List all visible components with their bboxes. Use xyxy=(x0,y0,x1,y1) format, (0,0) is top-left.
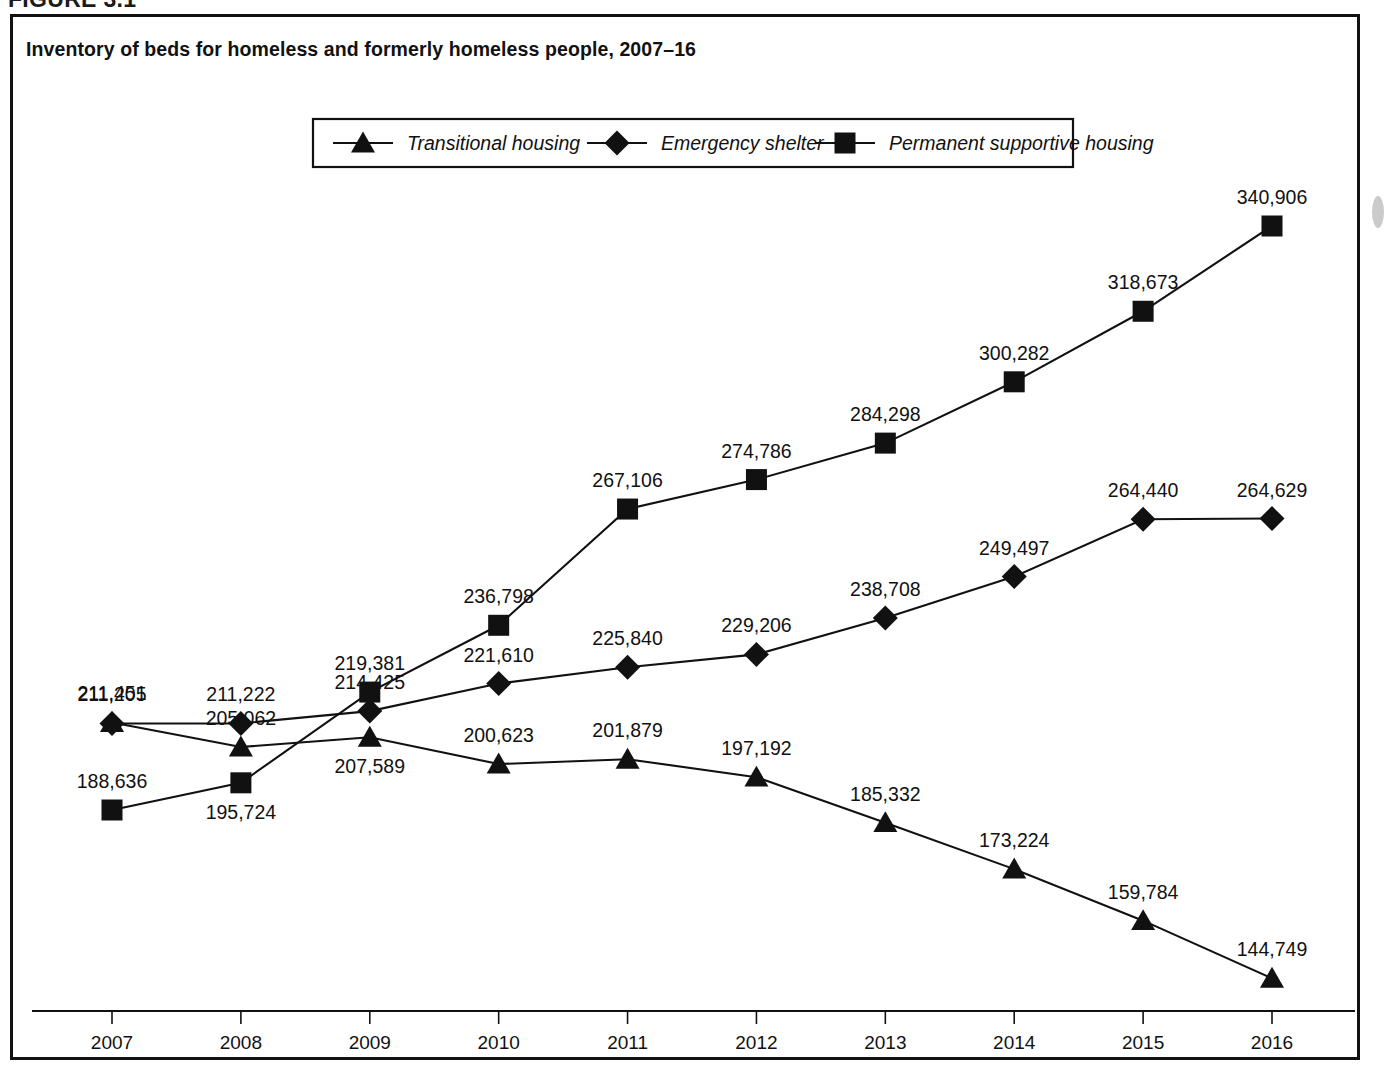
data-label: 211,222 xyxy=(206,683,275,705)
diamond-marker xyxy=(873,605,898,630)
series-permanent-supportive-housing xyxy=(102,216,1283,821)
chart-legend: Transitional housingEmergency shelterPer… xyxy=(313,119,1154,167)
diamond-marker xyxy=(100,711,125,736)
diamond-marker xyxy=(744,642,769,667)
data-label: 264,440 xyxy=(1108,479,1179,501)
data-label: 205,062 xyxy=(206,707,277,729)
square-marker xyxy=(1133,301,1154,322)
data-label: 211,205 xyxy=(77,683,146,705)
square-marker xyxy=(1262,216,1283,237)
triangle-marker xyxy=(358,726,382,747)
data-label: 284,298 xyxy=(850,403,921,425)
diamond-marker xyxy=(486,671,511,696)
series-emergency-shelter xyxy=(100,506,1285,736)
data-label: 207,589 xyxy=(335,755,406,777)
data-label: 185,332 xyxy=(850,783,921,805)
data-label: 318,673 xyxy=(1108,271,1179,293)
triangle-marker xyxy=(873,811,897,832)
data-label: 238,708 xyxy=(850,578,921,600)
data-label: 274,786 xyxy=(721,440,792,462)
diamond-marker xyxy=(1260,506,1285,531)
data-label: 197,192 xyxy=(721,737,792,759)
scan-artifact xyxy=(1372,196,1384,228)
data-label-group: 211,451205,062207,589200,623201,879197,1… xyxy=(77,186,1308,960)
data-label: 225,840 xyxy=(592,627,663,649)
data-label: 201,879 xyxy=(592,719,663,741)
triangle-marker xyxy=(1260,967,1284,988)
x-tick-label-2012: 2012 xyxy=(735,1032,777,1053)
diamond-marker xyxy=(1131,507,1156,532)
square-marker xyxy=(835,133,856,154)
data-label: 236,798 xyxy=(463,585,534,607)
data-label: 249,497 xyxy=(979,537,1050,559)
series-line xyxy=(112,226,1272,810)
square-marker xyxy=(875,433,896,454)
square-marker xyxy=(617,499,638,520)
data-label: 219,381 xyxy=(335,652,406,674)
series-line xyxy=(112,722,1272,978)
triangle-marker xyxy=(616,748,640,769)
data-label: 267,106 xyxy=(592,469,663,491)
data-label: 340,906 xyxy=(1237,186,1308,208)
data-label: 188,636 xyxy=(77,770,148,792)
triangle-marker xyxy=(1131,909,1155,930)
x-tick-label-2014: 2014 xyxy=(993,1032,1036,1053)
data-label: 300,282 xyxy=(979,342,1050,364)
x-tick-label-2016: 2016 xyxy=(1251,1032,1293,1053)
x-tick-label-2007: 2007 xyxy=(91,1032,133,1053)
square-marker xyxy=(746,469,767,490)
square-marker xyxy=(102,800,123,821)
x-tick-label-2010: 2010 xyxy=(478,1032,520,1053)
square-marker xyxy=(230,772,251,793)
square-marker xyxy=(488,615,509,636)
line-chart: Transitional housingEmergency shelterPer… xyxy=(0,0,1393,1066)
diamond-marker xyxy=(1002,564,1027,589)
legend-label: Transitional housing xyxy=(407,132,580,154)
data-label: 200,623 xyxy=(463,724,534,746)
data-label: 221,610 xyxy=(463,644,534,666)
x-tick-label-2009: 2009 xyxy=(349,1032,391,1053)
data-label: 159,784 xyxy=(1108,881,1179,903)
diamond-marker xyxy=(615,655,640,680)
legend-label: Permanent supportive housing xyxy=(889,132,1154,154)
x-tick-label-2015: 2015 xyxy=(1122,1032,1164,1053)
x-tick-label-2008: 2008 xyxy=(220,1032,262,1053)
figure-page: FIGURE 3.1 Inventory of beds for homeles… xyxy=(0,0,1393,1066)
x-tick-label-2011: 2011 xyxy=(607,1032,648,1053)
data-label: 264,629 xyxy=(1237,479,1308,501)
data-label: 195,724 xyxy=(206,801,277,823)
data-label: 214,425 xyxy=(335,671,406,693)
series-transitional-housing xyxy=(100,711,1284,988)
legend-label: Emergency shelter xyxy=(661,132,825,154)
data-label: 144,749 xyxy=(1237,938,1308,960)
triangle-marker xyxy=(1002,858,1026,879)
x-tick-label-2013: 2013 xyxy=(864,1032,906,1053)
data-label: 173,224 xyxy=(979,829,1050,851)
square-marker xyxy=(1004,371,1025,392)
data-label: 229,206 xyxy=(721,614,792,636)
x-axis-ticks: 2007200820092010201120122013201420152016 xyxy=(91,1011,1293,1053)
chart-series-group xyxy=(100,216,1285,988)
series-line xyxy=(112,519,1272,724)
